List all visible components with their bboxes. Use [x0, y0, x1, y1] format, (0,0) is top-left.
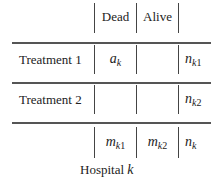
cell-a-k-base: a: [110, 51, 117, 66]
cell-n-k1-base: n: [185, 51, 192, 66]
row1-divider-2: [136, 45, 137, 74]
cell-n-k2-base: n: [185, 91, 192, 106]
table-caption: Hospital k: [80, 162, 134, 178]
cell-n-k1-sub-idx: 1: [196, 57, 201, 68]
cell-n-k-base: n: [185, 134, 192, 149]
cell-n-k1: nk1: [185, 51, 201, 67]
cell-n-k-sub-k: k: [192, 140, 196, 151]
cell-a-k-sub: k: [117, 57, 121, 68]
row2-divider-1: [94, 85, 95, 114]
cell-m-k1-sub-idx: 1: [120, 140, 125, 151]
header-dead: Dead: [95, 9, 136, 25]
caption-var: k: [127, 162, 133, 177]
row-label-treatment-2: Treatment 2: [19, 92, 82, 108]
caption-text: Hospital: [80, 162, 124, 177]
row2-divider-3: [178, 85, 179, 114]
cell-m-k2-base: m: [148, 134, 158, 149]
cell-n-k2-sub-idx: 2: [196, 97, 201, 108]
header-alive: Alive: [137, 9, 178, 25]
cell-m-k1-base: m: [106, 134, 116, 149]
cell-a-k: ak: [95, 51, 136, 67]
cell-n-k2: nk2: [185, 91, 201, 107]
row-label-treatment-1: Treatment 1: [19, 52, 82, 68]
cell-m-k1: mk1: [95, 134, 136, 150]
header-divider-3: [178, 3, 179, 33]
cell-m-k2: mk2: [137, 134, 178, 150]
row2-divider-2: [136, 85, 137, 114]
cell-n-k: nk: [185, 134, 196, 150]
footer-divider-3: [178, 127, 179, 158]
row1-divider-3: [178, 45, 179, 74]
rule-bottom: [12, 122, 211, 124]
cell-m-k2-sub-idx: 2: [162, 140, 167, 151]
rule-top: [12, 42, 211, 44]
rule-middle: [12, 82, 211, 84]
